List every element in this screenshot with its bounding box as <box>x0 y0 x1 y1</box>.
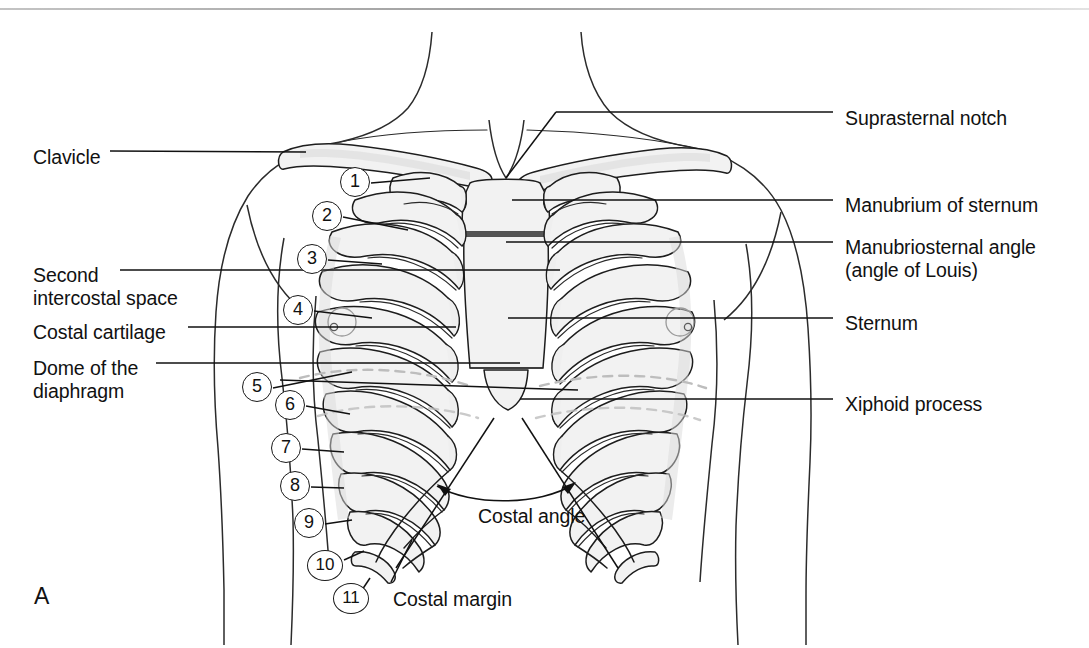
rib-callout-10: 10 <box>307 550 343 581</box>
clavicle-leader <box>110 151 306 152</box>
sternum-bone <box>462 179 549 410</box>
label-dome-of-the-diaphragm: Dome of the diaphragm <box>33 357 138 403</box>
figure-root: .ln { fill:none; stroke:#1d1d1d; stroke-… <box>0 0 1089 648</box>
rib-callout-9: 9 <box>294 508 324 538</box>
label-second-intercostal-space: Second intercostal space <box>33 264 178 310</box>
rib-callout-8: 8 <box>280 471 310 501</box>
rib-callout-3: 3 <box>297 244 327 274</box>
rib-callout-4: 4 <box>283 295 313 325</box>
rib-callout-2: 2 <box>312 201 342 231</box>
label-manubrium-of-sternum: Manubrium of sternum <box>845 194 1038 217</box>
rib-callout-1: 1 <box>340 167 370 197</box>
label-xiphoid-process: Xiphoid process <box>845 393 982 416</box>
label-costal-angle: Costal angle <box>478 505 585 528</box>
label-costal-cartilage: Costal cartilage <box>33 321 166 344</box>
rib-callout-6: 6 <box>275 390 305 420</box>
rib-callout-7: 7 <box>271 433 301 463</box>
label-costal-margin: Costal margin <box>393 588 512 611</box>
panel-letter-a: A <box>34 583 49 610</box>
rib-callout-5: 5 <box>242 372 272 402</box>
label-suprasternal-notch: Suprasternal notch <box>845 107 1007 130</box>
label-manubriosternal-angle: Manubriosternal angle (angle of Louis) <box>845 236 1036 282</box>
rib-callout-11: 11 <box>333 583 369 614</box>
label-sternum: Sternum <box>845 312 918 335</box>
label-clavicle: Clavicle <box>33 146 100 169</box>
